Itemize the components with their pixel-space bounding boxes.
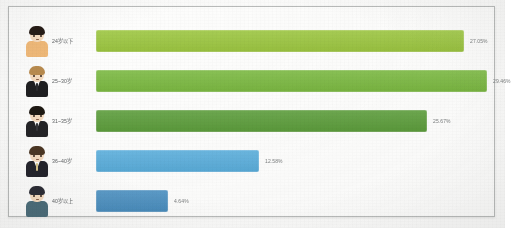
bar [96,150,259,172]
bar [96,30,464,52]
avatar-eye [40,115,42,117]
category-label: 36~40岁 [52,157,92,165]
category-label: 40岁以上 [52,197,92,205]
bar-value-label: 25.67% [433,118,451,124]
avatar-eye [33,115,35,117]
bar-track: 27.05% [96,30,499,52]
avatar-young-person-icon [22,24,52,58]
avatar-body [26,201,48,217]
chart-row: 24岁以下27.05% [18,24,503,58]
bar [96,110,427,132]
avatar [22,144,52,178]
bar-value-label: 29.46% [493,78,511,84]
avatar-hair [29,66,45,75]
avatar-hair [29,146,45,155]
avatar-eye [33,35,35,37]
avatar [22,24,52,58]
bar-track: 29.46% [96,70,499,92]
chart-row: 31~35岁25.67% [18,104,503,138]
avatar-mouth [36,39,39,40]
avatar-eye [33,155,35,157]
avatar-man-blue-shirt-icon [22,184,52,218]
avatar-mouth [36,159,39,160]
avatar-hair [29,186,45,195]
bar-track: 4.64% [96,190,499,212]
avatar-tie [36,123,38,131]
category-label: 25~30岁 [52,77,92,85]
avatar-eye [40,75,42,77]
chart-row: 40岁以上4.64% [18,184,503,218]
avatar-hair [29,26,45,35]
avatar-mouth [36,199,39,200]
avatar-eye [40,195,42,197]
avatar-eye [40,155,42,157]
avatar [22,184,52,218]
horizontal-bar-chart: 24岁以下27.05%25~30岁29.46%31~35岁25.67%36~40… [18,14,503,223]
avatar-mouth [36,119,39,120]
category-label: 24岁以下 [52,37,92,45]
avatar-tie [36,83,38,91]
bar-track: 12.58% [96,150,499,172]
avatar-man-dark-hair-suit-icon [22,104,52,138]
bar-value-label: 12.58% [265,158,283,164]
category-label: 31~35岁 [52,117,92,125]
chart-row: 36~40岁12.58% [18,144,503,178]
avatar-body [26,41,48,57]
bar-track: 25.67% [96,110,499,132]
avatar-eye [40,35,42,37]
avatar-hair [29,106,45,115]
avatar-eye [33,195,35,197]
chart-row: 25~30岁29.46% [18,64,503,98]
bar [96,70,487,92]
avatar-tie [36,163,38,171]
avatar [22,64,52,98]
avatar-eye [33,75,35,77]
bar-value-label: 27.05% [470,38,488,44]
avatar [22,104,52,138]
chart-frame: 24岁以下27.05%25~30岁29.46%31~35岁25.67%36~40… [8,6,495,217]
avatar-man-brown-hair-suit-icon [22,144,52,178]
avatar-mouth [36,79,39,80]
avatar-man-light-hair-suit-icon [22,64,52,98]
bar-value-label: 4.64% [174,198,189,204]
bar [96,190,168,212]
